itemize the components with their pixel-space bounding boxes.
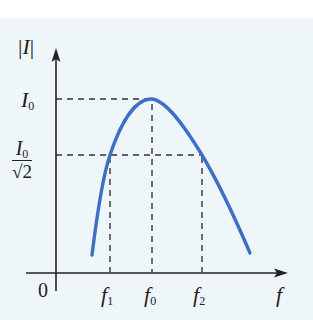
i0-tick-label: I0 xyxy=(21,89,34,112)
f2-subscript: 2 xyxy=(199,294,205,308)
half-power-subscript: 0 xyxy=(22,147,28,161)
f1-tick-label: f1 xyxy=(101,284,113,307)
f0-tick-label: f0 xyxy=(144,284,156,307)
half-power-tick-label: I0 √2 xyxy=(12,138,32,181)
fraction-numerator: I0 xyxy=(12,138,32,161)
abs-bar-right: | xyxy=(30,34,34,59)
resonance-curve xyxy=(92,99,250,255)
f2-tick-label: f2 xyxy=(193,284,205,307)
resonance-plot xyxy=(0,0,313,320)
current-symbol: I xyxy=(22,34,29,59)
x-axis-label: f xyxy=(276,284,282,306)
fraction-denominator: √2 xyxy=(12,161,32,181)
y-axis-label: |I| xyxy=(18,36,34,58)
i0-subscript: 0 xyxy=(28,99,34,113)
f1-subscript: 1 xyxy=(107,294,113,308)
f0-subscript: 0 xyxy=(150,294,156,308)
origin-label: 0 xyxy=(38,280,48,300)
